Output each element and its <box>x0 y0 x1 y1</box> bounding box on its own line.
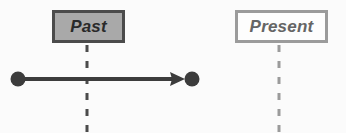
era-label-past: Past <box>70 18 107 35</box>
era-label-present: Present <box>250 18 314 35</box>
era-box-past: Past <box>52 10 125 43</box>
interval-start-dot <box>11 72 26 87</box>
era-box-present: Present <box>235 10 328 43</box>
interval-arrowhead-icon <box>170 72 185 86</box>
timeline-diagram: Past Present <box>0 0 346 133</box>
interval-end-dot <box>185 72 200 87</box>
